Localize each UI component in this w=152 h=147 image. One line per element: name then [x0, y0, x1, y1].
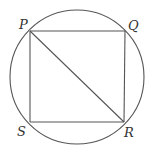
vertex-label-s: S: [17, 124, 26, 139]
inscribed-square-diagram: P Q R S: [0, 0, 152, 147]
side-qr: [124, 31, 125, 122]
vertex-label-r: R: [123, 125, 134, 140]
vertex-label-q: Q: [128, 18, 139, 33]
diagonal-pr: [30, 31, 124, 122]
vertex-label-p: P: [18, 17, 28, 32]
